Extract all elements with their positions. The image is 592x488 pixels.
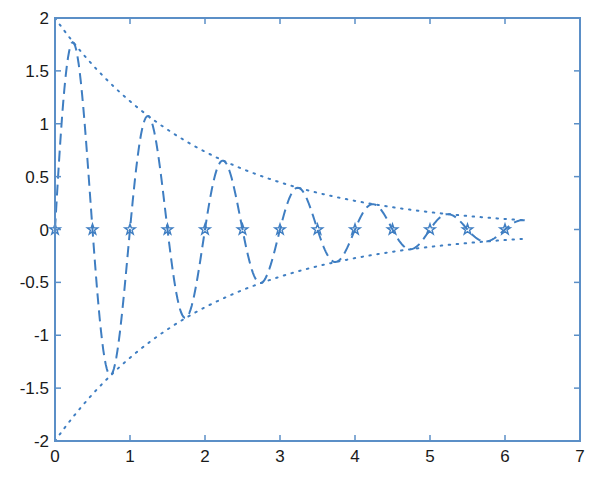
x-tick-label: 5: [425, 447, 434, 466]
x-tick-label: 4: [350, 447, 359, 466]
x-tick-label: 3: [275, 447, 284, 466]
y-tick-label: 1: [40, 115, 49, 134]
y-tick-label: 2: [40, 9, 49, 28]
x-axis: 01234567: [50, 18, 584, 466]
y-tick-label: 0: [40, 221, 49, 240]
damped-sine-line: [55, 42, 526, 375]
y-tick-label: 0.5: [25, 168, 49, 187]
x-tick-label: 2: [200, 447, 209, 466]
y-tick-label: -1: [34, 326, 49, 345]
envelope-line: [55, 18, 526, 220]
y-axis: -2-1.5-1-0.500.511.52: [20, 9, 580, 451]
star-marker-icon: [125, 224, 135, 234]
y-tick-label: -2: [34, 432, 49, 451]
chart: 01234567 -2-1.5-1-0.500.511.52: [0, 0, 592, 488]
x-tick-label: 1: [125, 447, 134, 466]
x-tick-label: 6: [500, 447, 509, 466]
star-marker-icon: [312, 224, 322, 234]
y-tick-label: -0.5: [20, 273, 49, 292]
plot-series: [50, 18, 526, 441]
x-tick-label: 7: [575, 447, 584, 466]
y-tick-label: -1.5: [20, 379, 49, 398]
x-tick-label: 0: [50, 447, 59, 466]
y-tick-label: 1.5: [25, 62, 49, 81]
